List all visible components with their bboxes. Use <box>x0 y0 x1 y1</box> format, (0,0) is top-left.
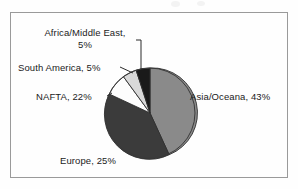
slice-label-nafta: NAFTA, 22% <box>36 91 92 103</box>
slice-label-africa-line2: 5% <box>33 39 137 51</box>
slice-label-asia-oceana: Asia/Oceana, 43% <box>190 91 270 103</box>
slice-label-africa-line1: Africa/Middle East, <box>44 27 125 38</box>
slice-label-europe: Europe, 25% <box>60 155 116 167</box>
slice-label-south-america: South America, 5% <box>18 62 101 74</box>
leader-line-south-america <box>120 67 133 73</box>
slice-label-africa-middle-east: Africa/Middle East, 5% <box>33 27 137 50</box>
chart-canvas: Africa/Middle East, 5% South America, 5%… <box>0 0 298 189</box>
